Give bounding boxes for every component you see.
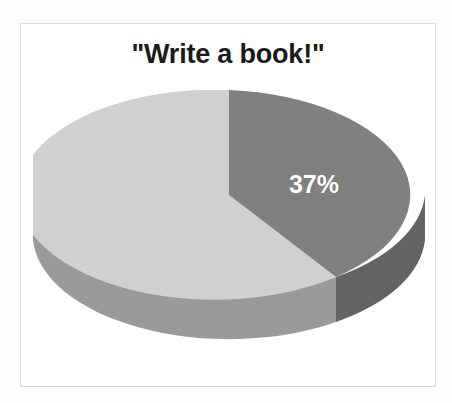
pie-chart-graphic bbox=[33, 90, 425, 340]
chart-frame: "Write a book!" 37% bbox=[20, 23, 436, 387]
dark-slice-percent-label: 37% bbox=[269, 170, 359, 199]
pie-plot-area: 37% bbox=[21, 24, 435, 386]
